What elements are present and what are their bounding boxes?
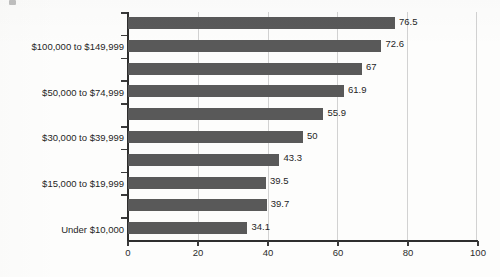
bar-value-label: 34.1 xyxy=(252,221,271,232)
bar xyxy=(128,63,362,75)
bar-value-label: 61.9 xyxy=(348,84,367,95)
bar xyxy=(128,222,247,234)
bar xyxy=(128,154,279,166)
bar xyxy=(128,131,303,143)
bar-row: 34.1 xyxy=(128,217,477,240)
bar xyxy=(128,199,267,211)
bar-row: 76.5 xyxy=(128,12,477,35)
bar-row: 67 xyxy=(128,58,477,81)
bar-value-label: 39.7 xyxy=(271,198,290,209)
bar xyxy=(128,17,395,29)
bar-value-label: 50 xyxy=(307,130,318,141)
scan-artifact-mark xyxy=(9,0,16,5)
y-axis-tick xyxy=(121,172,127,174)
bar-value-label: 39.5 xyxy=(270,175,289,186)
y-axis-tick xyxy=(121,80,127,82)
x-axis-tick xyxy=(477,241,479,246)
y-axis-category-labels: $100,000 to $149,999 $50,000 to $74,999 … xyxy=(0,12,124,240)
bar-value-label: 55.9 xyxy=(328,107,347,118)
bar xyxy=(128,85,344,97)
x-axis-tick xyxy=(337,241,339,246)
x-axis-tick-label-0: 0 xyxy=(125,247,130,258)
y-axis-tick xyxy=(121,149,127,151)
y-axis-tick xyxy=(121,35,127,37)
bar-value-label: 72.6 xyxy=(386,38,405,49)
x-axis-line xyxy=(127,240,478,242)
chart-page: $100,000 to $149,999 $50,000 to $74,999 … xyxy=(0,0,500,277)
bar xyxy=(128,108,323,120)
bar-value-label: 67 xyxy=(366,61,377,72)
y-axis-tick xyxy=(121,126,127,128)
x-axis-tick-label-20: 20 xyxy=(193,247,204,258)
y-axis-label-15000-19999: $15,000 to $19,999 xyxy=(2,178,124,189)
bar-row: 55.9 xyxy=(128,103,477,126)
bar-row: 61.9 xyxy=(128,80,477,103)
x-axis-tick-label-80: 80 xyxy=(403,247,414,258)
x-axis-tick xyxy=(267,241,269,246)
y-axis-label-under-10000: Under $10,000 xyxy=(2,224,124,235)
bar-row: 72.6 xyxy=(128,35,477,58)
y-axis-label-100000-149999: $100,000 to $149,999 xyxy=(2,41,124,52)
bar-value-label: 76.5 xyxy=(399,16,418,27)
bar xyxy=(128,40,381,52)
bar-row: 39.5 xyxy=(128,172,477,195)
x-axis-tick-label-60: 60 xyxy=(333,247,344,258)
bar xyxy=(128,177,266,189)
bar-row: 50 xyxy=(128,126,477,149)
x-axis-tick xyxy=(407,241,409,246)
bar-value-label: 43.3 xyxy=(284,152,303,163)
x-axis-tick-label-40: 40 xyxy=(263,247,274,258)
x-axis-tick-label-100: 100 xyxy=(470,247,486,258)
y-axis-label-50000-74999: $50,000 to $74,999 xyxy=(2,87,124,98)
y-axis-tick xyxy=(121,194,127,196)
y-axis-tick xyxy=(121,217,127,219)
bar-row: 39.7 xyxy=(128,194,477,217)
y-axis-tick xyxy=(121,58,127,60)
y-axis-tick xyxy=(121,12,127,14)
plot-area: 76.5 72.6 67 61.9 55.9 50 43.3 39.5 xyxy=(128,12,477,240)
y-axis-tick xyxy=(121,103,127,105)
bar-row: 43.3 xyxy=(128,149,477,172)
x-axis-tick xyxy=(127,241,129,246)
x-axis-tick xyxy=(197,241,199,246)
y-axis-label-30000-39999: $30,000 to $39,999 xyxy=(2,132,124,143)
